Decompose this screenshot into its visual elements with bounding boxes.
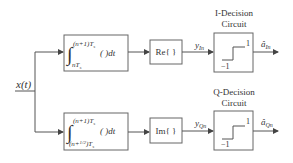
block-diagram: x(t) ∫ (n+1)Ts nTs ( )dt Re{ } yIn I-Dec… xyxy=(0,0,293,163)
input-label: x(t) xyxy=(15,78,32,91)
a-qn-label: âQn xyxy=(261,117,273,128)
svg-text:1: 1 xyxy=(246,117,250,126)
i-branch: ∫ (n+1)Ts nTs ( )dt Re{ } yIn I-Decision… xyxy=(64,8,278,72)
svg-text:(n+1)Ts: (n+1)Ts xyxy=(73,117,95,126)
svg-text:(n+1)Ts: (n+1)Ts xyxy=(73,40,95,49)
i-decision-title-2: Circuit xyxy=(222,19,247,29)
input-signal: x(t) xyxy=(15,52,63,132)
a-in-label: âIn xyxy=(261,39,271,50)
y-qn-label: yQn xyxy=(194,118,206,129)
y-in-label: yIn xyxy=(194,40,204,51)
integrand: ( )dt xyxy=(100,48,116,58)
integrand: ( )dt xyxy=(100,126,116,136)
svg-text:−1: −1 xyxy=(221,62,230,71)
im-label: Im{ } xyxy=(156,126,177,136)
q-decision-title-2: Circuit xyxy=(222,98,247,108)
i-decision-title-1: I-Decision xyxy=(215,8,253,18)
re-label: Re{ } xyxy=(156,47,177,57)
q-decision-title-1: Q-Decision xyxy=(213,87,255,97)
svg-text:1: 1 xyxy=(246,39,250,48)
q-branch: ∫ (n+1)Ts (n+1/2)Ts ( )dt Im{ } yQn Q-De… xyxy=(64,87,278,150)
svg-text:−1: −1 xyxy=(221,140,230,149)
